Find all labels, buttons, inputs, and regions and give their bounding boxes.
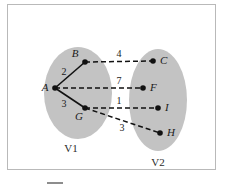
figure-root: A B G C F I H 2 3 4 7 1 3 V1 V2 [0, 0, 227, 189]
edge-weight-b-c: 4 [117, 48, 122, 59]
edge-weight-a-b: 2 [62, 66, 67, 77]
node-g[interactable] [82, 105, 88, 111]
graph-canvas: A B G C F I H 2 3 4 7 1 3 V1 V2 [0, 0, 227, 189]
edge-weight-g-h: 3 [120, 122, 125, 133]
edge-b-c [85, 61, 153, 62]
edge-weight-g-i: 1 [117, 95, 122, 106]
node-label-g: G [75, 110, 83, 122]
node-c[interactable] [150, 58, 156, 64]
node-a[interactable] [52, 85, 58, 91]
vertex-set-ellipse-v1 [44, 47, 112, 139]
node-label-a: A [41, 81, 49, 93]
caption-rule [47, 182, 63, 184]
node-i[interactable] [155, 105, 161, 111]
edge-weight-a-g: 3 [62, 98, 67, 109]
edge-weight-a-f: 7 [117, 75, 122, 86]
node-h[interactable] [157, 130, 163, 136]
node-label-c: C [160, 54, 168, 66]
node-label-f: F [149, 81, 157, 93]
vertex-set-ellipse-v2 [129, 49, 187, 151]
node-f[interactable] [140, 85, 146, 91]
node-label-b: B [72, 47, 79, 59]
set-label-v2: V2 [151, 156, 164, 168]
set-label-v1: V1 [64, 142, 77, 154]
node-label-h: H [166, 126, 176, 138]
node-b[interactable] [82, 59, 88, 65]
